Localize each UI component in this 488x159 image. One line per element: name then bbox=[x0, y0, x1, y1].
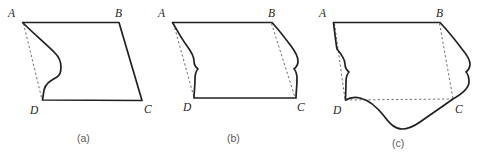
vertex-label-b-a: B bbox=[115, 7, 122, 19]
caption-b: (b) bbox=[227, 132, 240, 144]
vertex-label-b-c: B bbox=[436, 7, 443, 19]
quadrilateral-outline-c bbox=[334, 23, 471, 130]
quadrilateral-outline-a bbox=[23, 23, 143, 101]
caption-a: (a) bbox=[77, 132, 90, 144]
caption-c: (c) bbox=[392, 137, 404, 149]
vertex-label-d-c: D bbox=[332, 104, 342, 116]
figure-panel: A B C D (a) A B C D (b) bbox=[0, 0, 488, 159]
vertex-label-a-b: A bbox=[157, 7, 166, 19]
vertex-label-d-b: D bbox=[182, 101, 192, 113]
vertex-label-c-c: C bbox=[455, 103, 463, 115]
dashed-segment-ad-c bbox=[335, 24, 346, 100]
vertex-label-b-b: B bbox=[268, 7, 275, 19]
dashed-segment-ad-a bbox=[24, 24, 43, 100]
vertex-label-c-a: C bbox=[144, 103, 152, 115]
vertex-label-d-a: D bbox=[29, 104, 39, 116]
dashed-segment-ad-b bbox=[174, 24, 195, 98]
vertex-label-c-b: C bbox=[297, 101, 305, 113]
figure-c: A B C D (c) bbox=[310, 0, 488, 159]
vertex-label-a-a: A bbox=[7, 7, 16, 19]
vertex-label-a-c: A bbox=[318, 7, 327, 19]
figure-b: A B C D (b) bbox=[155, 0, 315, 159]
figure-a: A B C D (a) bbox=[0, 0, 163, 159]
